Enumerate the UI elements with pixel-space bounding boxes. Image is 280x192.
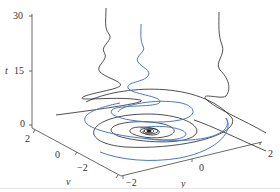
bottom-divider <box>0 188 280 189</box>
y-tick-0: 0 <box>199 163 204 173</box>
v-axis-label: v <box>66 177 70 187</box>
v-tick-neg2: −2 <box>77 163 88 173</box>
t-axis-label: t <box>5 66 8 76</box>
y-tick-neg2: −2 <box>126 178 137 188</box>
3d-plot <box>0 0 280 192</box>
t-tick-0: 0 <box>20 119 25 129</box>
y-tick-2: 2 <box>268 149 273 159</box>
left-wall-projection <box>56 8 142 115</box>
t-tick-30: 30 <box>13 11 23 21</box>
floor-spiral-projection <box>86 89 233 147</box>
v-tick-2: 2 <box>25 134 30 144</box>
axes <box>29 14 262 179</box>
right-wall-projection <box>194 12 266 151</box>
t-tick-15: 15 <box>14 66 24 76</box>
v-tick-0: 0 <box>55 150 60 160</box>
